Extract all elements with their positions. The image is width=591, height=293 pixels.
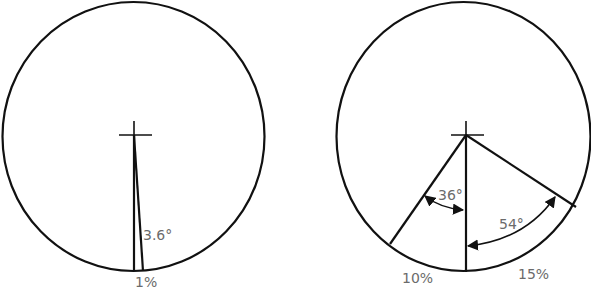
diagram-canvas: 3.6° 1% 36° 54° 10% 15% <box>0 0 591 293</box>
left-circle-diagram: 3.6° 1% <box>3 2 265 290</box>
left-percent-label: 1% <box>135 274 157 290</box>
left-wedge <box>134 135 143 271</box>
angle-36-label: 36° <box>438 187 463 203</box>
right-sectors <box>390 135 576 272</box>
percent-15-label: 15% <box>518 266 549 282</box>
left-angle-label: 3.6° <box>143 227 172 243</box>
angle-54-label: 54° <box>499 216 524 232</box>
percent-10-label: 10% <box>402 270 433 286</box>
right-circle-diagram: 36° 54° 10% 15% <box>337 2 591 286</box>
right-circle-outline <box>337 2 591 271</box>
